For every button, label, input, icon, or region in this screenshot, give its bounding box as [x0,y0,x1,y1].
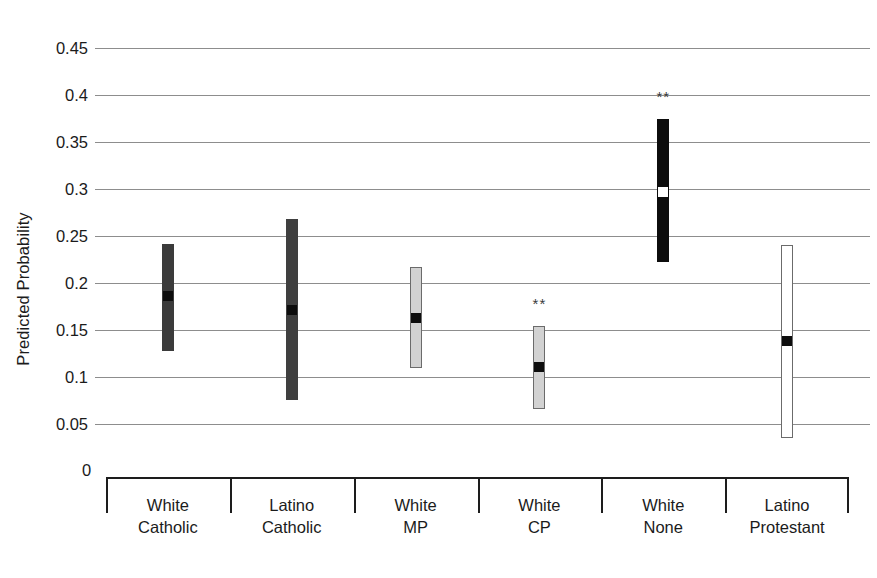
y-axis-tick-label: 0.1 [20,368,88,387]
gridline [105,95,870,96]
y-axis-tick-label: 0.2 [20,274,88,293]
category-label-line2: Catholic [230,516,354,538]
category-label-line1: White [354,494,478,516]
y-axis-tick [95,95,105,96]
point-estimate-marker [287,305,297,315]
chart-container: Predicted Probability 0.450.40.350.30.25… [0,0,877,578]
category-label-line1: Latino [230,494,354,516]
point-estimate-marker [782,336,792,346]
y-axis-tick-label: 0.15 [20,321,88,340]
category-label-line2: CP [478,516,602,538]
y-axis-tick [95,189,105,190]
category-label-line1: Latino [725,494,849,516]
point-estimate-marker [534,362,544,372]
point-estimate-marker [658,187,668,197]
category-label: WhiteCP [478,494,602,539]
y-axis-tick-label: 0.3 [20,180,88,199]
gridline [105,377,870,378]
y-axis-tick [95,48,105,49]
point-estimate-marker [411,313,421,323]
y-axis-zero-label: 0 [82,461,91,480]
y-axis-tick-label: 0.45 [20,39,88,58]
y-axis-tick-label: 0.35 [20,133,88,152]
category-label: LatinoCatholic [230,494,354,539]
y-axis-tick-label: 0.4 [20,86,88,105]
category-label-line2: Protestant [725,516,849,538]
significance-marker: ** [533,296,547,311]
category-label: LatinoProtestant [725,494,849,539]
y-axis-tick-label: 0.05 [20,415,88,434]
plot-area: 0.450.40.350.30.250.20.150.10.05**** [0,0,877,578]
category-label: WhiteMP [354,494,478,539]
gridline [105,48,870,49]
gridline [105,283,870,284]
significance-marker: ** [656,89,670,104]
point-estimate-marker [163,291,173,301]
category-label: WhiteCatholic [106,494,230,539]
y-axis-tick-label: 0.25 [20,227,88,246]
category-label-line2: MP [354,516,478,538]
gridline [105,142,870,143]
y-axis-tick [95,283,105,284]
category-label-line1: White [601,494,725,516]
y-axis-tick [95,377,105,378]
y-axis-tick [95,424,105,425]
gridline [105,424,870,425]
y-axis-tick [95,142,105,143]
category-label-line1: White [478,494,602,516]
category-label-line2: None [601,516,725,538]
gridline [105,330,870,331]
category-label-line2: Catholic [106,516,230,538]
gridline [105,236,870,237]
gridline [105,189,870,190]
category-label-line1: White [106,494,230,516]
category-label: WhiteNone [601,494,725,539]
y-axis-tick [95,330,105,331]
y-axis-tick [95,236,105,237]
